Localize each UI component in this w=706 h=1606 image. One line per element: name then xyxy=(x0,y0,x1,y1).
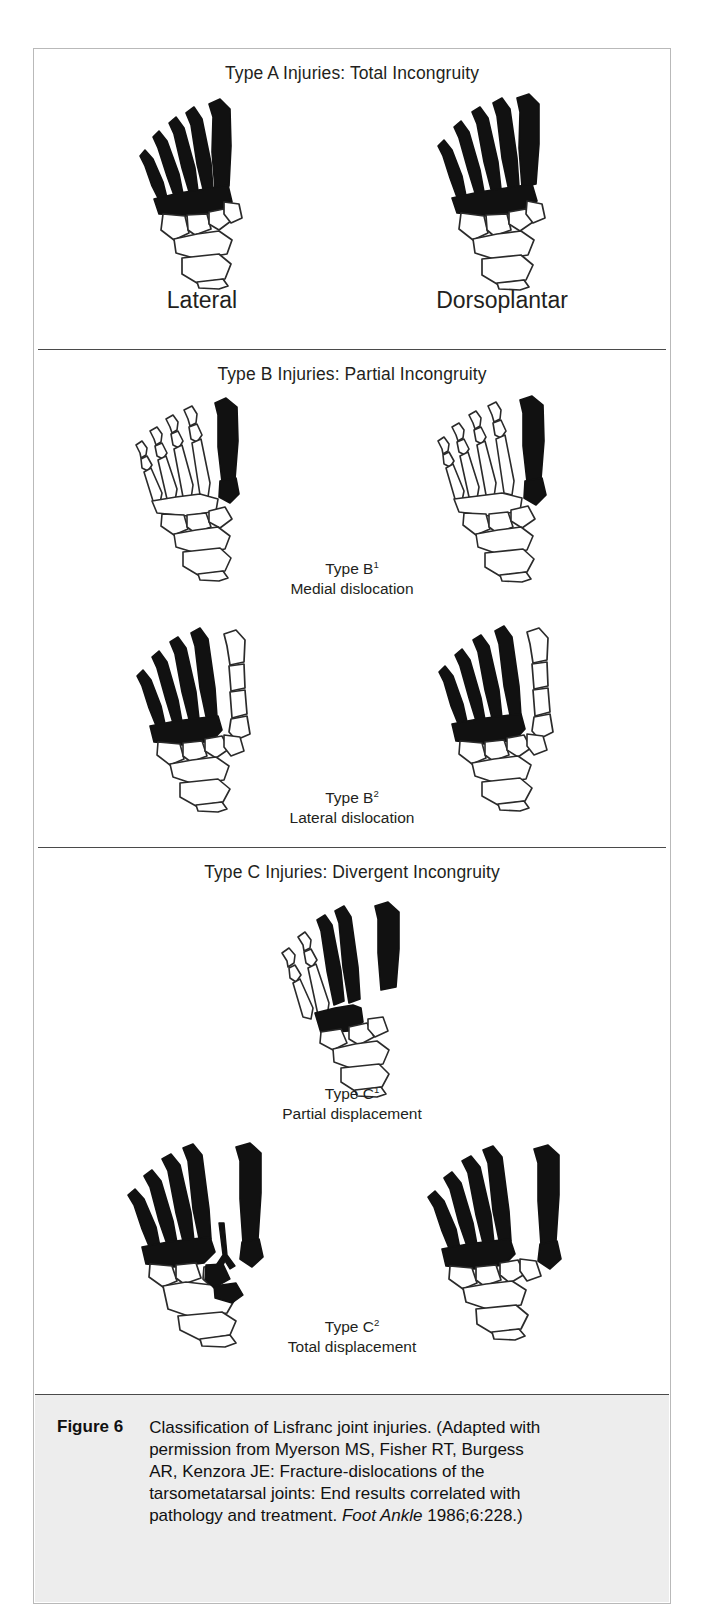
figure-caption-text: Classification of Lisfranc joint injurie… xyxy=(149,1417,544,1592)
section-a-figures xyxy=(34,90,670,285)
figure-plate: Type A Injuries: Total Incongruity xyxy=(33,48,671,1604)
metatarsal-rays-black xyxy=(439,626,525,744)
foot-diagram-a-dorsoplantar xyxy=(427,90,577,285)
metatarsal-ray-1-black-divergent xyxy=(534,1145,561,1269)
metatarsal-ray-1-black-divergent xyxy=(375,902,399,990)
section-a-view-labels: Lateral Dorsoplantar xyxy=(34,287,670,314)
figure-b1-lateral xyxy=(52,393,352,553)
metatarsal-rays-black xyxy=(137,628,222,745)
figure-number: Figure 6 xyxy=(57,1417,149,1592)
metatarsal-rays-black xyxy=(128,1144,215,1267)
section-b-heading: Type B Injuries: Partial Incongruity xyxy=(34,350,670,385)
label-c2-type: Type C xyxy=(325,1318,374,1335)
figure-b2-lateral xyxy=(52,622,352,782)
divergence-marker xyxy=(215,1223,235,1269)
section-type-c: Type C Injuries: Divergent Incongruity xyxy=(34,848,670,1394)
label-b2-type: Type B xyxy=(325,789,373,806)
tarsal-bones-outline xyxy=(459,201,545,290)
metatarsal-rays-white xyxy=(438,402,514,501)
metatarsal-rays-white xyxy=(282,932,329,1019)
label-c1-sup: 1 xyxy=(374,1084,379,1095)
metatarsal-rays-white xyxy=(136,406,210,503)
figure-a-lateral xyxy=(52,90,352,285)
view-label-dorsoplantar: Dorsoplantar xyxy=(436,287,568,313)
label-b2-description: Lateral dislocation xyxy=(34,808,670,828)
figure-group-b1 xyxy=(34,393,670,553)
label-c2-description: Total displacement xyxy=(34,1337,670,1357)
label-c1-description: Partial displacement xyxy=(34,1104,670,1124)
caption-journal-name: Foot Ankle xyxy=(342,1506,423,1525)
caption-run: 1986;6:228.) xyxy=(423,1506,523,1525)
label-c2: Type C2 Total displacement xyxy=(34,1317,670,1358)
figure-group-b2 xyxy=(34,622,670,782)
label-c1: Type C1 Partial displacement xyxy=(34,1084,670,1125)
metatarsal-rays-black xyxy=(438,94,539,216)
figure-b2-dorsoplantar xyxy=(352,622,652,782)
section-type-a: Type A Injuries: Total Incongruity xyxy=(34,49,670,349)
metatarsal-ray-1-black xyxy=(215,398,239,503)
figure-b1-dorsoplantar xyxy=(352,393,652,553)
metatarsal-ray-1-white xyxy=(527,628,553,739)
label-b1-sup: 1 xyxy=(373,559,378,570)
label-b2-sup: 2 xyxy=(373,788,378,799)
metatarsal-ray-1-white xyxy=(224,630,250,740)
label-b1-type: Type B xyxy=(325,560,373,577)
label-c1-type: Type C xyxy=(325,1085,374,1102)
metatarsal-rays-black xyxy=(428,1146,515,1269)
metatarsal-ray-1-black-divergent xyxy=(236,1143,263,1267)
foot-diagram-b2-dorsoplantar xyxy=(432,622,572,782)
section-a-heading: Type A Injuries: Total Incongruity xyxy=(34,49,670,84)
foot-diagram-c1-dorsoplantar xyxy=(277,893,427,1078)
figure-c1 xyxy=(202,893,502,1078)
label-b1-description: Medial dislocation xyxy=(34,579,670,599)
section-c-heading: Type C Injuries: Divergent Incongruity xyxy=(34,848,670,883)
figure-c2-right xyxy=(352,1143,652,1313)
label-b1: Type B1 Medial dislocation xyxy=(34,559,670,600)
figure-group-c2 xyxy=(34,1143,670,1313)
foot-diagram-a-lateral xyxy=(127,90,277,285)
foot-diagram-b1-lateral xyxy=(132,393,272,553)
tarsal-bones-outline xyxy=(161,202,242,289)
figure-a-dorsoplantar xyxy=(352,90,652,285)
foot-diagram-c2-right xyxy=(422,1143,582,1313)
metatarsal-rays-black xyxy=(140,99,232,216)
figure-c2-left xyxy=(52,1143,352,1313)
foot-diagram-b1-dorsoplantar xyxy=(432,393,572,553)
label-c2-sup: 2 xyxy=(374,1317,379,1328)
figure-caption-block: Figure 6 Classification of Lisfranc join… xyxy=(35,1394,669,1602)
foot-diagram-c2-left xyxy=(122,1143,282,1313)
foot-diagram-b2-lateral xyxy=(132,622,272,782)
label-b2: Type B2 Lateral dislocation xyxy=(34,788,670,829)
view-label-lateral: Lateral xyxy=(167,287,237,313)
metatarsal-ray-1-black xyxy=(520,396,546,505)
figure-group-c1 xyxy=(34,893,670,1078)
metatarsal-rays-black xyxy=(315,906,363,1033)
section-type-b: Type B Injuries: Partial Incongruity xyxy=(34,350,670,847)
